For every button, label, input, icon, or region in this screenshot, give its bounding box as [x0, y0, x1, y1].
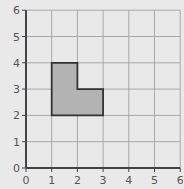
y-tick-label: 3	[13, 83, 20, 96]
x-axis-tick-labels: 0123456	[23, 174, 184, 187]
y-axis-tick-labels: 0123456	[13, 4, 20, 175]
y-tick-label: 2	[13, 109, 20, 122]
y-tick-label: 1	[13, 136, 20, 149]
x-tick-label: 6	[177, 174, 183, 187]
x-tick-label: 1	[48, 174, 55, 187]
coordinate-grid: 0123456 0123456	[0, 0, 183, 189]
x-tick-label: 3	[100, 174, 107, 187]
y-tick-label: 0	[13, 162, 20, 175]
x-tick-label: 0	[23, 174, 30, 187]
l-shape-polygon	[52, 63, 103, 116]
x-tick-label: 5	[151, 174, 158, 187]
x-tick-label: 2	[74, 174, 81, 187]
y-tick-label: 4	[13, 57, 20, 70]
y-tick-label: 6	[13, 4, 20, 17]
x-tick-label: 4	[125, 174, 132, 187]
y-tick-label: 5	[13, 31, 20, 44]
